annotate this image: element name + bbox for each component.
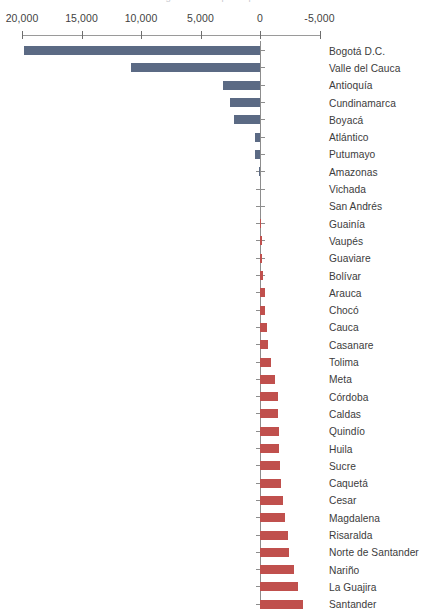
category-label: Arauca (329, 287, 362, 298)
chart-bar (260, 323, 267, 332)
category-label: Vaupés (329, 235, 363, 246)
chart-bar (255, 133, 260, 142)
category-label: Guainía (329, 218, 365, 229)
category-label: Atlántico (329, 132, 369, 143)
category-label: Chocó (329, 305, 359, 316)
chart-bar (260, 340, 268, 349)
x-axis-tick-label: -5,000 (304, 12, 334, 24)
chart-row: Magdalena (0, 509, 425, 526)
x-axis-tick (260, 31, 261, 39)
category-label: Casanare (329, 339, 374, 350)
category-label: Bolívar (329, 270, 361, 281)
chart-bar (260, 531, 288, 540)
x-axis-tick-labels: 20,00015,00010,0005,0000-5,000 (0, 12, 425, 26)
x-axis-tick (320, 31, 321, 39)
chart-row: Norte de Santander (0, 544, 425, 561)
chart-row: Amazonas (0, 163, 425, 180)
x-axis-tick (22, 31, 23, 39)
chart-row: Nariño (0, 561, 425, 578)
chart-row: Cundinamarca (0, 94, 425, 111)
category-label: Cesar (329, 495, 356, 506)
category-label: Bogotá D.C. (329, 45, 385, 56)
category-label: Santander (329, 599, 376, 610)
category-label: Córdoba (329, 391, 368, 402)
chart-row: Atlántico (0, 129, 425, 146)
category-label: Vichada (329, 184, 366, 195)
chart-bar (260, 306, 265, 315)
chart-row: Caquetá (0, 475, 425, 492)
chart-bar (260, 358, 271, 367)
chart-row: Chocó (0, 302, 425, 319)
chart-row: Putumayo (0, 146, 425, 163)
chart-bar (260, 461, 280, 470)
category-label: Caldas (329, 408, 361, 419)
x-axis-tick-label: 5,000 (187, 12, 214, 24)
chart-row: Guainía (0, 215, 425, 232)
chart-row: Caldas (0, 405, 425, 422)
x-axis-tick (201, 31, 202, 39)
chart-row: Arauca (0, 284, 425, 301)
category-label: Magdalena (329, 512, 380, 523)
chart-row: Quindío (0, 423, 425, 440)
chart-bar (260, 427, 279, 436)
x-axis-tick-label: 15,000 (65, 12, 98, 24)
category-label: Nariño (329, 564, 359, 575)
chart-row: Bogotá D.C. (0, 42, 425, 59)
chart-row: Cesar (0, 492, 425, 509)
chart-bar (260, 254, 262, 263)
chart-bar (260, 548, 289, 557)
category-label: Risaralda (329, 530, 372, 541)
category-label: Valle del Cauca (329, 62, 400, 73)
chart-bar (260, 271, 263, 280)
x-axis-tick (141, 31, 142, 39)
category-axis-tick (256, 189, 265, 190)
x-axis-line (22, 35, 320, 36)
chart-row: La Guajira (0, 578, 425, 595)
chart-row: Risaralda (0, 526, 425, 543)
chart-bar (260, 600, 303, 609)
plot-area: Bogotá D.C.Valle del CaucaAntioquíaCundi… (0, 41, 425, 603)
category-label: Boyacá (329, 114, 363, 125)
chart-row: Casanare (0, 336, 425, 353)
category-label: Cundinamarca (329, 97, 396, 108)
chart-title-text: Saldo migratorio neto por departamento (0, 0, 425, 2)
x-axis-tick-label: 20,000 (6, 12, 39, 24)
chart-bar (260, 496, 283, 505)
x-axis-tick-label: 0 (257, 12, 263, 24)
chart-row: Meta (0, 371, 425, 388)
chart-bar (260, 219, 261, 228)
category-label: Caquetá (329, 478, 368, 489)
category-label: Guaviare (329, 253, 371, 264)
chart-bar (131, 63, 260, 72)
chart-bar (260, 565, 294, 574)
chart-row: Guaviare (0, 250, 425, 267)
chart-bar (255, 150, 260, 159)
category-label: Amazonas (329, 166, 378, 177)
category-label: Sucre (329, 460, 356, 471)
chart-row: Sucre (0, 457, 425, 474)
chart-bar (260, 513, 285, 522)
chart-row: Córdoba (0, 388, 425, 405)
chart-row: Antioquía (0, 77, 425, 94)
x-axis-tick-label: 10,000 (125, 12, 158, 24)
chart-bar (260, 444, 279, 453)
chart-title-clipped: Saldo migratorio neto por departamento (0, 0, 425, 8)
chart-row: Valle del Cauca (0, 59, 425, 76)
chart-bar (259, 167, 260, 176)
chart-bar (260, 392, 278, 401)
chart-row: Boyacá (0, 111, 425, 128)
category-label: La Guajira (329, 581, 377, 592)
chart-row: Bolívar (0, 267, 425, 284)
category-axis-tick (256, 206, 265, 207)
category-label: Antioquía (329, 80, 373, 91)
chart-row: San Andrés (0, 198, 425, 215)
chart-row: Vaupés (0, 232, 425, 249)
chart-bar (260, 479, 281, 488)
chart-bar (223, 81, 260, 90)
category-label: San Andrés (329, 201, 382, 212)
category-axis-tick (256, 171, 265, 172)
category-label: Cauca (329, 322, 359, 333)
category-label: Huila (329, 443, 352, 454)
chart-bar (260, 582, 298, 591)
chart-row: Santander (0, 596, 425, 613)
